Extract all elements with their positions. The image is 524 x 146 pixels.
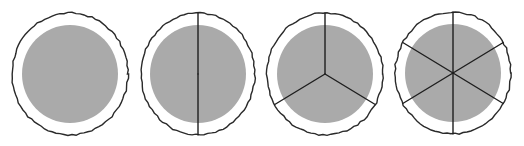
circle-sixths xyxy=(395,12,511,134)
circle-thirds xyxy=(266,13,383,136)
circle-whole xyxy=(12,12,129,135)
diagram-canvas xyxy=(0,0,524,146)
circle-halves xyxy=(141,13,255,135)
circle-fill xyxy=(22,25,118,123)
fraction-circles-diagram xyxy=(0,0,524,146)
